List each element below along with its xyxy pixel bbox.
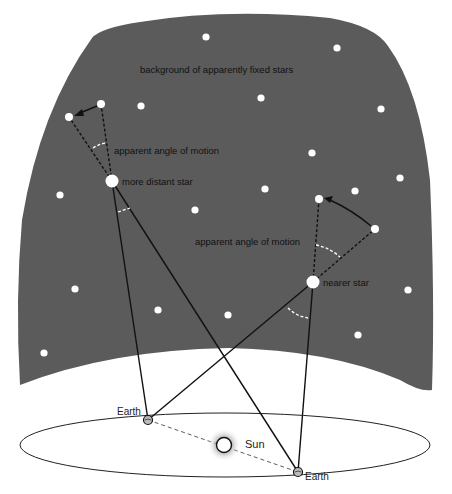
earth-label-left: Earth — [117, 406, 141, 417]
near-star — [307, 276, 320, 289]
earth-icon-left — [144, 416, 153, 425]
background-stars-label: background of apparently fixed stars — [140, 64, 293, 75]
angle-label-near: apparent angle of motion — [195, 236, 300, 247]
parallax-diagram: background of apparently fixed stars — [0, 0, 452, 494]
earth-icon-right — [294, 468, 303, 477]
sun-icon — [217, 438, 232, 453]
sun-label: Sun — [245, 438, 265, 450]
earth-label-right: Earth — [305, 471, 329, 482]
angle-label-distant: apparent angle of motion — [114, 145, 219, 156]
distant-star — [106, 175, 119, 188]
distant-star-label: more distant star — [122, 176, 193, 187]
near-star-label: nearer star — [323, 277, 369, 288]
